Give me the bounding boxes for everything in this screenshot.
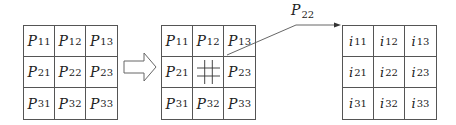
cell-i31: i31 [343, 88, 374, 119]
cell-i32: i32 [374, 88, 405, 119]
cell-p13: P13 [224, 26, 255, 57]
cell-i12: i12 [374, 26, 405, 57]
cell-p23: P23 [224, 57, 255, 88]
cell-i22: i22 [374, 57, 405, 88]
cell-i11: i11 [343, 26, 374, 57]
cell-i33: i33 [405, 88, 436, 119]
cell-p22-subdivided [193, 57, 224, 88]
cell-p21: P21 [162, 57, 193, 88]
cell-p31: P31 [162, 88, 193, 119]
cell-i23: i23 [405, 57, 436, 88]
subgrid-3x3-icon [197, 60, 220, 84]
subdivided-matrix: P11 P12 P13 P21 P23 P31 P32 P33 [161, 25, 256, 120]
cell-p11: P11 [162, 26, 193, 57]
hollow-right-arrow-icon [124, 53, 156, 81]
output-matrix-i: i11 i12 i13 i21 i22 i23 i31 i32 i33 [342, 25, 437, 120]
cell-i13: i13 [405, 26, 436, 57]
cell-p33: P33 [224, 88, 255, 119]
callout-label-p22: P22 [291, 2, 314, 20]
cell-i21: i21 [343, 57, 374, 88]
cell-p32: P32 [193, 88, 224, 119]
cell-p12: P12 [193, 26, 224, 57]
